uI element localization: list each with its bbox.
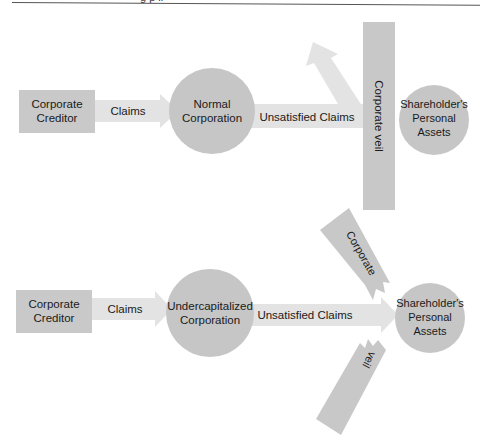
shareholder-label-line3: Assets <box>413 325 447 337</box>
claims-label: Claims <box>107 303 142 315</box>
piercing-veil-diagram: Unsatisfied Claims Claims Corporate Cred… <box>0 0 480 447</box>
torn-veil-upper-piece <box>320 208 390 300</box>
creditor-label-line2: Creditor <box>37 112 78 124</box>
unsatisfied-claims-label: Unsatisfied Claims <box>257 309 352 321</box>
corporation-label-line1: Undercapitalized <box>167 300 253 312</box>
corporation-label-line1: Normal <box>193 98 230 110</box>
corporate-veil-label: Corporate veil <box>373 80 385 152</box>
corporation-label-line2: Corporation <box>180 314 240 326</box>
unsatisfied-claims-label: Unsatisfied Claims <box>259 111 354 123</box>
normal-corporation-circle <box>169 68 255 154</box>
top-diagram: Unsatisfied Claims Claims Corporate Cred… <box>19 22 469 210</box>
undercapitalized-corporation-circle <box>166 269 254 357</box>
shareholder-label-line2: Personal <box>412 112 455 124</box>
creditor-label-line1: Corporate <box>31 98 82 110</box>
shareholder-label-line1: Shareholder's <box>400 98 468 110</box>
claims-label: Claims <box>110 105 145 117</box>
creditor-label-line2: Creditor <box>34 312 75 324</box>
shareholder-label-line3: Assets <box>417 126 451 138</box>
bottom-diagram: Unsatisfied Claims Claims Corporate Cred… <box>16 208 465 435</box>
shareholder-label-line1: Shareholder's <box>396 297 464 309</box>
shareholder-label-line2: Personal <box>408 311 451 323</box>
creditor-label-line1: Corporate <box>28 298 79 310</box>
corporation-label-line2: Corporation <box>182 112 242 124</box>
